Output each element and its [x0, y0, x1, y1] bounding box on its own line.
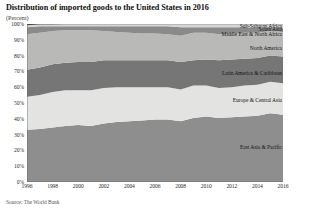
x-tick-label: 2008: [175, 183, 186, 189]
x-tick-label: 2012: [226, 183, 237, 189]
x-tick-label: 2000: [73, 183, 84, 189]
x-tick-label: 2004: [124, 183, 135, 189]
area-series-svg: [27, 24, 283, 182]
y-tick-label: 50%: [14, 100, 24, 106]
y-tick-label: 90%: [14, 37, 24, 43]
y-tick-label: 80%: [14, 53, 24, 59]
y-tick-label: 60%: [14, 84, 24, 90]
x-tick-label: 1998: [47, 183, 58, 189]
stacked-area-chart: Distribution of imported goods to the Un…: [0, 0, 311, 213]
y-tick-label: 30%: [14, 132, 24, 138]
x-tick-label: 2014: [252, 183, 263, 189]
series-label: East Asia & Pacific: [240, 144, 282, 150]
series-label: Middle East & North Africa: [222, 31, 282, 37]
y-tick-label: 70%: [14, 68, 24, 74]
page-title: Distribution of imported goods to the Un…: [6, 3, 209, 12]
y-tick-label: 100%: [11, 21, 24, 27]
y-tick-label: 10%: [14, 163, 24, 169]
x-axis: 1996199820002002200420062008201020122014…: [27, 183, 283, 195]
x-tick-label: 2002: [98, 183, 109, 189]
series-label: North America: [250, 45, 282, 51]
x-tick-label: 2006: [150, 183, 161, 189]
y-tick-label: 40%: [14, 116, 24, 122]
x-tick-label: 1996: [22, 183, 33, 189]
chart-subtitle: (Percent): [6, 14, 29, 21]
x-tick-label: 2016: [278, 183, 289, 189]
series-label: Europe & Central Asia: [233, 97, 282, 103]
series-label: Latin America & Caribbean: [222, 70, 282, 76]
y-axis: 0%10%20%30%40%50%60%70%80%90%100%: [0, 24, 25, 182]
x-tick-label: 2010: [201, 183, 212, 189]
series-layers: [27, 24, 283, 182]
y-tick-label: 20%: [14, 147, 24, 153]
plot-area: [27, 24, 283, 182]
source-note: Source: The World Bank: [6, 199, 59, 205]
